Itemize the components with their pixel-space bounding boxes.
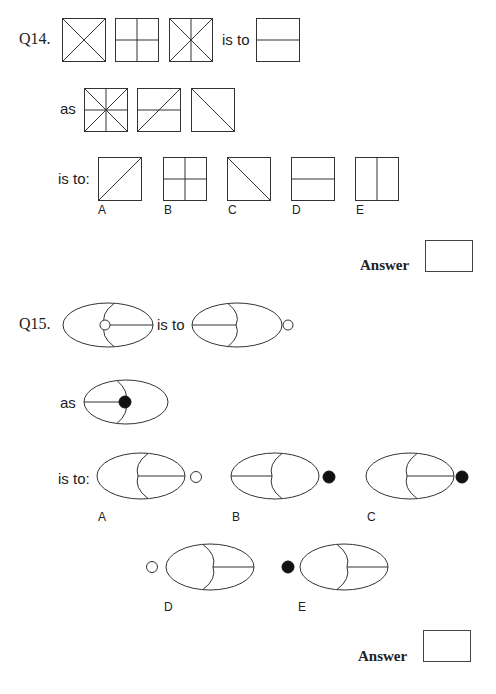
- q15-option-c-label: C: [367, 510, 376, 524]
- q15-answer-label: Answer: [358, 648, 407, 665]
- q14-stem-figure-2: [115, 18, 159, 62]
- q15-option-d-figure[interactable]: [144, 543, 256, 593]
- q15-option-e-label: E: [298, 600, 306, 614]
- q14-option-b-figure[interactable]: [163, 157, 207, 201]
- q15-stem-circle-2: [282, 319, 294, 331]
- q14-answer-label: Answer: [360, 257, 409, 274]
- question-number-q14: Q14.: [19, 30, 51, 48]
- q14-option-a-figure[interactable]: [98, 157, 142, 201]
- q14-is-to-text: is to: [222, 31, 250, 48]
- q14-option-b-label: B: [164, 203, 172, 217]
- q15-is-to-colon-text: is to:: [58, 470, 90, 487]
- q15-answer-box[interactable]: [423, 630, 471, 662]
- q14-option-e-figure[interactable]: [355, 157, 399, 201]
- q14-stem-figure-1: [62, 18, 106, 62]
- q15-option-b-figure[interactable]: [230, 452, 340, 502]
- q14-stem-figure-4: [256, 18, 300, 62]
- q15-option-c-figure[interactable]: [365, 452, 475, 502]
- q15-stem-figure-1: [62, 302, 154, 348]
- q14-option-e-label: E: [356, 203, 364, 217]
- q15-option-d-label: D: [164, 600, 173, 614]
- q14-stem-figure-3: [169, 18, 213, 62]
- q15-option-b-label: B: [232, 510, 240, 524]
- q14-as-text: as: [60, 100, 76, 117]
- q14-stem-figure-6: [137, 88, 181, 132]
- q14-option-d-label: D: [292, 203, 301, 217]
- q14-option-d-figure[interactable]: [291, 157, 335, 201]
- question-number-q15: Q15.: [19, 315, 51, 333]
- q15-is-to-text: is to: [157, 316, 185, 333]
- q14-answer-box[interactable]: [425, 240, 473, 272]
- q14-stem-figure-5: [84, 88, 128, 132]
- q15-option-a-label: A: [98, 510, 106, 524]
- q15-option-a-figure[interactable]: [96, 452, 206, 502]
- q14-is-to-colon-text: is to:: [58, 170, 90, 187]
- q14-option-c-label: C: [228, 203, 237, 217]
- q14-option-c-figure[interactable]: [227, 157, 271, 201]
- q15-stem-figure-2: [191, 302, 283, 348]
- q15-stem-figure-3: [83, 379, 169, 425]
- q14-option-a-label: A: [98, 203, 106, 217]
- q15-option-e-figure[interactable]: [280, 543, 392, 593]
- q14-stem-figure-7: [191, 88, 235, 132]
- q15-as-text: as: [60, 394, 76, 411]
